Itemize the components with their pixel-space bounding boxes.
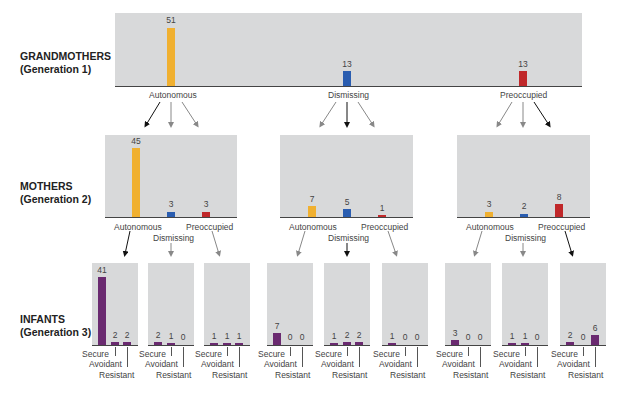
arrow-icon [212,231,219,254]
arrow-icon [125,231,130,254]
arrow-icon [475,231,482,254]
arrow-icon [358,102,373,125]
arrow-icon [565,231,572,254]
arrow-icon [321,102,336,125]
arrow-icon [298,231,305,254]
arrow-icon [388,231,396,254]
arrow-icon [146,102,160,125]
arrows-layer [0,0,621,396]
arrow-icon [498,102,512,125]
arrow-icon [182,102,197,125]
arrow-icon [534,102,549,125]
